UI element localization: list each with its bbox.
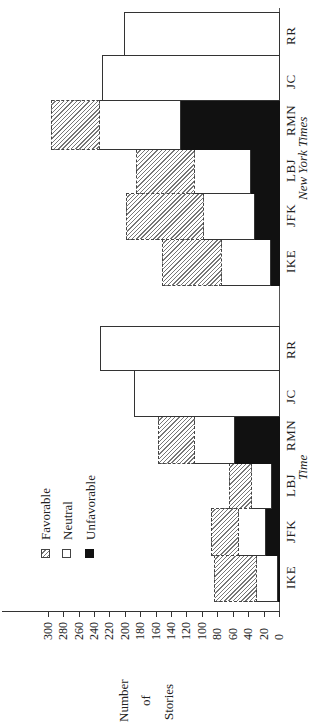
bar-nyt-jfk-unfavorable bbox=[254, 193, 280, 240]
bar-time-lbj-unfavorable bbox=[271, 463, 280, 509]
bar-nyt-rr-neutral bbox=[124, 12, 280, 56]
legend-unfavorable-label: Unfavorable bbox=[83, 475, 99, 540]
bar-time-jfk-unfavorable bbox=[265, 508, 280, 556]
bar-nyt-lbj-unfavorable bbox=[250, 149, 280, 194]
axis-title-line2: of bbox=[138, 695, 154, 706]
tick-label: 160 bbox=[149, 622, 164, 640]
category-label-time-jfk: JFK bbox=[283, 520, 299, 543]
tick-mark bbox=[202, 611, 203, 617]
tick-mark bbox=[186, 611, 187, 617]
tick-label: 260 bbox=[72, 622, 87, 640]
bar-nyt-rmn-neutral bbox=[99, 100, 181, 150]
tick-mark bbox=[279, 611, 280, 617]
tick-mark bbox=[48, 611, 49, 617]
bar-time-ike-neutral bbox=[256, 555, 278, 602]
tick-label: 200 bbox=[118, 622, 133, 640]
tick-label: 240 bbox=[87, 622, 102, 640]
tick-mark bbox=[217, 611, 218, 617]
value-axis-line bbox=[2, 611, 280, 612]
tick-mark bbox=[79, 611, 80, 617]
legend-favorable-swatch bbox=[41, 549, 50, 558]
group-label-time: Time bbox=[295, 455, 311, 480]
category-label-nyt-jfk: JFK bbox=[283, 204, 299, 227]
tick-mark bbox=[63, 611, 64, 617]
tick-label: 0 bbox=[272, 634, 287, 640]
legend-neutral-label: Neutral bbox=[60, 501, 76, 540]
bar-nyt-lbj-favorable bbox=[136, 149, 196, 194]
tick-mark bbox=[171, 611, 172, 617]
bar-nyt-lbj-neutral bbox=[194, 149, 251, 194]
category-label-nyt-ike: IKE bbox=[283, 250, 299, 273]
stacked-bar-chart: 0204060801001201401601802002202402602803… bbox=[0, 0, 318, 722]
bar-time-jfk-favorable bbox=[211, 508, 239, 556]
group-label-nyt: New York Times bbox=[295, 117, 311, 200]
category-label-time-rmn: RMN bbox=[283, 420, 299, 451]
tick-mark bbox=[156, 611, 157, 617]
bar-time-jc-neutral bbox=[134, 370, 280, 417]
bar-nyt-ike-unfavorable bbox=[270, 239, 280, 286]
tick-label: 100 bbox=[195, 622, 210, 640]
bar-time-lbj-favorable bbox=[229, 463, 252, 509]
tick-label: 220 bbox=[102, 622, 117, 640]
bar-nyt-ike-neutral bbox=[221, 239, 271, 286]
legend-neutral-swatch bbox=[62, 549, 71, 558]
tick-mark bbox=[94, 611, 95, 617]
tick-label: 300 bbox=[41, 622, 56, 640]
axis-title-line1: Number bbox=[116, 679, 132, 722]
bar-time-rmn-favorable bbox=[158, 416, 195, 464]
tick-label: 140 bbox=[164, 622, 179, 640]
bar-nyt-jfk-favorable bbox=[126, 193, 203, 240]
bar-time-lbj-neutral bbox=[251, 463, 271, 509]
tick-label: 120 bbox=[179, 622, 194, 640]
tick-mark bbox=[140, 611, 141, 617]
tick-mark bbox=[125, 611, 126, 617]
tick-mark bbox=[264, 611, 265, 617]
tick-label: 60 bbox=[226, 628, 241, 640]
bar-time-rr-neutral bbox=[100, 326, 280, 371]
tick-label: 280 bbox=[56, 622, 71, 640]
axis-title-line3: Stories bbox=[161, 684, 177, 720]
bar-time-jfk-neutral bbox=[238, 508, 266, 556]
bar-nyt-rmn-unfavorable bbox=[180, 100, 280, 150]
bar-time-ike-favorable bbox=[214, 555, 257, 602]
bar-nyt-ike-favorable bbox=[162, 239, 222, 286]
tick-label: 20 bbox=[257, 628, 272, 640]
bar-time-rmn-neutral bbox=[194, 416, 234, 464]
legend-favorable-label: Favorable bbox=[38, 488, 54, 540]
category-label-nyt-rr: RR bbox=[283, 27, 299, 45]
category-label-time-rr: RR bbox=[283, 341, 299, 359]
category-label-time-ike: IKE bbox=[283, 566, 299, 589]
legend-unfavorable-swatch bbox=[85, 549, 94, 558]
category-label-nyt-jc: JC bbox=[283, 74, 299, 89]
tick-mark bbox=[248, 611, 249, 617]
bar-time-rmn-unfavorable bbox=[234, 416, 280, 464]
tick-mark bbox=[109, 611, 110, 617]
tick-label: 80 bbox=[210, 628, 225, 640]
tick-mark bbox=[233, 611, 234, 617]
bar-nyt-jfk-neutral bbox=[203, 193, 255, 240]
bar-nyt-rmn-favorable bbox=[51, 100, 101, 150]
tick-label: 180 bbox=[133, 622, 148, 640]
bar-nyt-jc-neutral bbox=[102, 55, 280, 101]
category-label-time-jc: JC bbox=[283, 389, 299, 404]
tick-label: 40 bbox=[241, 628, 256, 640]
